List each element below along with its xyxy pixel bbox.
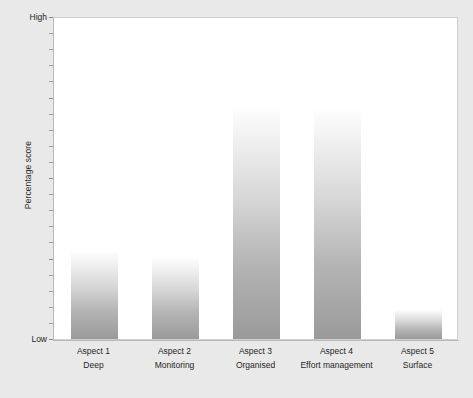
category-description: Deep — [53, 358, 134, 372]
category-name: Aspect 4 — [296, 344, 377, 358]
category-name: Aspect 2 — [134, 344, 215, 358]
y-axis-high-label: High — [30, 12, 47, 22]
x-axis-baseline — [53, 340, 459, 341]
category-description: Effort management — [296, 358, 377, 372]
y-axis-low-label: Low — [31, 334, 47, 344]
y-axis-label-column: High Low — [0, 0, 47, 398]
category-label: Aspect 5Surface — [377, 344, 458, 372]
bar-chart: Percentage score High Low Aspect 1DeepAs… — [0, 0, 473, 398]
category-description: Surface — [377, 358, 458, 372]
bar — [233, 108, 280, 339]
category-label: Aspect 2Monitoring — [134, 344, 215, 372]
bar — [71, 252, 118, 339]
category-name: Aspect 1 — [53, 344, 134, 358]
category-name: Aspect 3 — [215, 344, 296, 358]
bar — [152, 258, 199, 339]
bars-container — [54, 18, 457, 339]
plot-area — [53, 17, 458, 340]
category-label: Aspect 3Organised — [215, 344, 296, 372]
category-name: Aspect 5 — [377, 344, 458, 358]
category-description: Organised — [215, 358, 296, 372]
x-axis-category-labels: Aspect 1DeepAspect 2MonitoringAspect 3Or… — [53, 344, 458, 394]
category-label: Aspect 1Deep — [53, 344, 134, 372]
bar — [395, 310, 442, 339]
bar — [314, 110, 361, 339]
category-description: Monitoring — [134, 358, 215, 372]
category-label: Aspect 4Effort management — [296, 344, 377, 372]
